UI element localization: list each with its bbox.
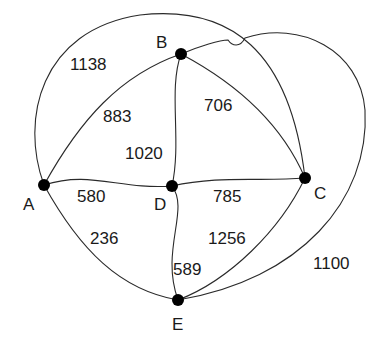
edge-a-d: [44, 179, 172, 186]
node-label-c: C: [314, 185, 326, 202]
node-a: [38, 179, 50, 191]
node-b: [175, 48, 187, 60]
edge-d-e: [172, 186, 178, 300]
weight-a-e: 236: [90, 230, 118, 247]
graph-canvas: [0, 0, 382, 353]
edge-b-d: [172, 54, 181, 186]
node-label-e: E: [172, 316, 183, 333]
weight-a-c: 1138: [70, 56, 107, 73]
node-d: [166, 180, 178, 192]
weight-d-e: 589: [173, 261, 201, 278]
edge-a-c: [35, 14, 305, 185]
node-label-d: D: [154, 196, 166, 213]
weight-a-d: 580: [77, 188, 105, 205]
node-label-a: A: [23, 196, 34, 213]
edge-b-c: [181, 54, 305, 178]
weight-b-c: 706: [204, 97, 232, 114]
node-label-b: B: [156, 34, 167, 51]
weight-b-d: 1020: [125, 145, 163, 162]
weight-b-e: 1100: [313, 255, 350, 272]
edge-d-c: [172, 178, 305, 186]
weight-c-e: 1256: [208, 230, 246, 247]
node-e: [172, 294, 184, 306]
node-c: [299, 172, 311, 184]
weight-d-c: 785: [213, 188, 241, 205]
weight-a-b: 883: [103, 108, 131, 125]
